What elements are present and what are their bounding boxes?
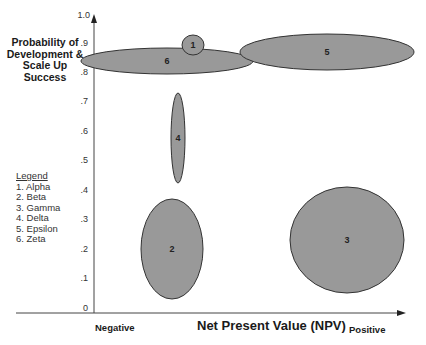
ellipse-label: 5 bbox=[324, 47, 329, 57]
y-tick: .2 bbox=[68, 244, 88, 254]
y-tick: .3 bbox=[68, 214, 88, 224]
x-axis-label: Net Present Value (NPV) bbox=[197, 318, 346, 333]
legend-entry: 6. Zeta bbox=[16, 234, 60, 245]
legend-entry: 4. Delta bbox=[16, 213, 60, 224]
y-tick: 1.0 bbox=[70, 10, 90, 20]
ellipse-label: 6 bbox=[164, 56, 169, 66]
y-tick: 0 bbox=[68, 303, 88, 313]
ellipse-layer bbox=[81, 34, 414, 299]
y-tick: .4 bbox=[68, 185, 88, 195]
legend: Legend 1. Alpha 2. Beta 3. Gamma 4. Delt… bbox=[16, 171, 60, 245]
x-axis-arrow-icon bbox=[397, 310, 406, 316]
y-tick: .8 bbox=[68, 67, 88, 77]
ellipse-label: 4 bbox=[175, 133, 180, 143]
y-tick: .7 bbox=[68, 96, 88, 106]
y-tick: .9 bbox=[68, 38, 88, 48]
ellipse-label: 3 bbox=[344, 235, 349, 245]
y-tick: .5 bbox=[68, 155, 88, 165]
ellipse-label: 1 bbox=[190, 40, 195, 50]
ellipse-label: 2 bbox=[169, 244, 174, 254]
y-tick: .1 bbox=[68, 273, 88, 283]
legend-title: Legend bbox=[16, 171, 60, 182]
x-axis-max-label: Positive bbox=[349, 324, 385, 335]
legend-entry: 2. Beta bbox=[16, 192, 60, 203]
y-tick: .6 bbox=[68, 126, 88, 136]
y-axis-arrow-icon bbox=[91, 14, 97, 23]
x-axis-min-label: Negative bbox=[95, 322, 135, 333]
